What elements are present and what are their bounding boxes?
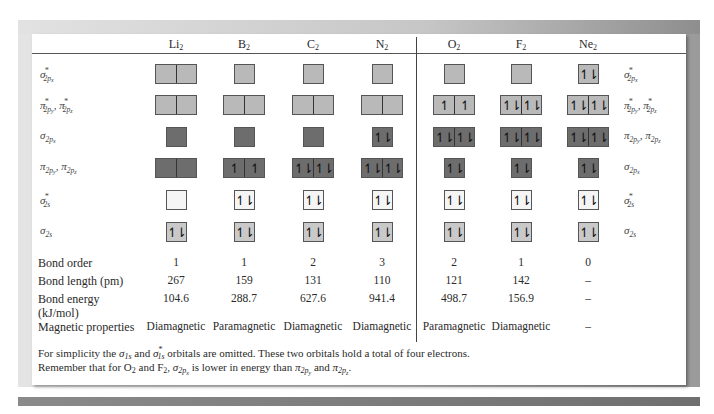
electron-arrows-icon: ↿⇂ bbox=[235, 223, 254, 241]
orbital-box-Ne2-3: ↿⇂ bbox=[578, 158, 599, 178]
footnote-1: For simplicity the σ1s and σ*1s orbitals… bbox=[38, 345, 470, 361]
empty-orbital-cell bbox=[167, 191, 186, 209]
empty-orbital-cell bbox=[512, 65, 531, 83]
electron-arrows-icon: ↿⇂ bbox=[235, 191, 254, 209]
footnote-2: Remember that for O2 and F2, σ2px is low… bbox=[38, 361, 351, 376]
orbital-box-B2-3: ↿↿ bbox=[223, 158, 265, 178]
electron-arrows-icon: ↿⇂ bbox=[373, 128, 392, 146]
fn1-sub2: 1s bbox=[157, 352, 164, 361]
electron-arrows-icon: ↿ bbox=[244, 159, 265, 177]
electron-arrows-icon: ↿⇂ bbox=[588, 128, 609, 146]
orbital-label-right-1: π*2py, π*2pz bbox=[624, 97, 657, 114]
column-header-O2: O2 bbox=[424, 37, 484, 52]
electron-arrows-icon: ↿⇂ bbox=[579, 65, 598, 83]
orbital-box-N2-5: ↿⇂ bbox=[372, 222, 393, 242]
electron-arrows-icon: ↿⇂ bbox=[445, 223, 464, 241]
column-header-Ne2: Ne2 bbox=[558, 37, 618, 52]
orbital-box-Ne2-2: ↿⇂↿⇂ bbox=[567, 127, 609, 147]
fn2-text-b: and F bbox=[136, 361, 164, 373]
orbital-box-O2-2: ↿⇂↿⇂ bbox=[433, 127, 475, 147]
electron-arrows-icon: ↿ bbox=[454, 96, 475, 114]
bond-energy-value-C2: 627.6 bbox=[273, 292, 353, 304]
electron-arrows-icon: ↿⇂ bbox=[362, 159, 382, 177]
orbital-box-Li2-0 bbox=[155, 64, 197, 84]
orbital-box-B2-4: ↿⇂ bbox=[234, 190, 255, 210]
orbital-label-left-4: σ*2s bbox=[40, 192, 50, 209]
fn2-text-f: . bbox=[348, 361, 351, 373]
magnetic-value-B2: Paramagnetic bbox=[204, 320, 284, 332]
electron-arrows-icon: ↿⇂ bbox=[445, 191, 464, 209]
orbital-box-Ne2-5: ↿⇂ bbox=[578, 222, 599, 242]
bond-energy-label-line1: Bond energy bbox=[38, 292, 99, 306]
orbital-box-C2-2 bbox=[303, 127, 324, 147]
electron-arrows-icon: ↿ bbox=[224, 159, 244, 177]
orbital-box-B2-1 bbox=[223, 95, 265, 115]
electron-arrows-icon: ↿⇂ bbox=[512, 191, 531, 209]
orbital-box-C2-4: ↿⇂ bbox=[303, 190, 324, 210]
electron-arrows-icon: ↿ bbox=[434, 96, 454, 114]
electron-arrows-icon: ↿⇂ bbox=[167, 223, 186, 241]
orbital-label-right-3: σ2px bbox=[624, 160, 640, 175]
empty-orbital-cell bbox=[373, 65, 392, 83]
electron-arrows-icon: ↿⇂ bbox=[521, 128, 542, 146]
electron-arrows-icon: ↿⇂ bbox=[313, 159, 334, 177]
column-header-N2: N2 bbox=[352, 37, 412, 52]
header-rule bbox=[32, 53, 686, 54]
fn1-text-a: For simplicity the bbox=[38, 347, 119, 359]
orbital-box-F2-0 bbox=[511, 64, 532, 84]
electron-arrows-icon: ↿⇂ bbox=[445, 159, 464, 177]
electron-arrows-icon: ↿⇂ bbox=[579, 223, 598, 241]
column-header-C2: C2 bbox=[283, 37, 343, 52]
magnetic-value-N2: Diamagnetic bbox=[342, 320, 422, 332]
orbital-box-F2-5: ↿⇂ bbox=[511, 222, 532, 242]
empty-orbital-cell bbox=[176, 159, 197, 177]
electron-arrows-icon: ↿⇂ bbox=[434, 128, 454, 146]
orbital-box-B2-2 bbox=[234, 127, 255, 147]
orbital-label-right-5: σ2s bbox=[624, 224, 636, 239]
electron-arrows-icon: ↿⇂ bbox=[579, 191, 598, 209]
fn2-text-a: Remember that for O bbox=[38, 361, 132, 373]
orbital-box-F2-1: ↿⇂↿⇂ bbox=[500, 95, 542, 115]
electron-arrows-icon: ↿⇂ bbox=[501, 128, 521, 146]
orbital-box-F2-2: ↿⇂↿⇂ bbox=[500, 127, 542, 147]
orbital-box-F2-3: ↿⇂ bbox=[511, 158, 532, 178]
bond-order-value-C2: 2 bbox=[273, 256, 353, 268]
orbital-box-Li2-2 bbox=[166, 127, 187, 147]
empty-orbital-cell bbox=[313, 96, 334, 114]
orbital-box-C2-1 bbox=[292, 95, 334, 115]
electron-arrows-icon: ↿⇂ bbox=[568, 128, 588, 146]
fn2-text-e: and bbox=[311, 361, 332, 373]
electron-arrows-icon: ↿⇂ bbox=[501, 96, 521, 114]
electron-arrows-icon: ↿⇂ bbox=[521, 96, 542, 114]
figure-frame-top bbox=[18, 20, 700, 34]
electron-arrows-icon: ↿⇂ bbox=[512, 159, 531, 177]
bond-length-value-Ne2: – bbox=[548, 274, 628, 286]
empty-orbital-cell bbox=[224, 96, 244, 114]
empty-orbital-cell bbox=[244, 96, 265, 114]
orbital-box-N2-2: ↿⇂ bbox=[372, 127, 393, 147]
bond-order-label: Bond order bbox=[38, 256, 92, 270]
orbital-label-right-0: σ*2px bbox=[624, 66, 638, 83]
orbital-box-B2-5: ↿⇂ bbox=[234, 222, 255, 242]
electron-arrows-icon: ↿⇂ bbox=[373, 223, 392, 241]
electron-arrows-icon: ↿⇂ bbox=[568, 96, 588, 114]
orbital-box-B2-0 bbox=[234, 64, 255, 84]
fn1-text-b: and bbox=[132, 347, 153, 359]
bond-energy-label-line2: (kJ/mol) bbox=[38, 306, 79, 320]
fn2-sub3: 2p bbox=[338, 366, 346, 375]
orbital-box-Li2-5: ↿⇂ bbox=[166, 222, 187, 242]
orbital-box-N2-3: ↿⇂↿⇂ bbox=[361, 158, 403, 178]
electron-arrows-icon: ↿⇂ bbox=[512, 223, 531, 241]
orbital-box-F2-4: ↿⇂ bbox=[511, 190, 532, 210]
empty-orbital-cell bbox=[362, 96, 382, 114]
orbital-label-left-1: π*2py, π*2pz bbox=[40, 97, 73, 114]
empty-orbital-cell bbox=[167, 128, 186, 146]
bond-order-value-B2: 1 bbox=[204, 256, 284, 268]
electron-arrows-icon: ↿⇂ bbox=[304, 191, 323, 209]
orbital-box-N2-1 bbox=[361, 95, 403, 115]
magnetic-value-C2: Diamagnetic bbox=[273, 320, 353, 332]
column-header-F2: F2 bbox=[491, 37, 551, 52]
orbital-box-O2-3: ↿⇂ bbox=[444, 158, 465, 178]
empty-orbital-cell bbox=[235, 65, 254, 83]
empty-orbital-cell bbox=[304, 65, 323, 83]
